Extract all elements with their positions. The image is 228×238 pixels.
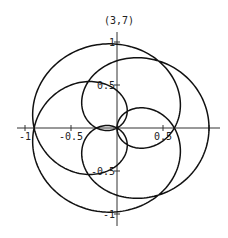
y-tick-label: 0.5	[97, 80, 115, 91]
chart-title: (3,7)	[104, 15, 134, 26]
y-tick-label: -0.5	[91, 166, 115, 177]
polar-rose-chart: (3,7) -1-0.50.510.5-0.5-1	[0, 0, 228, 238]
x-tick-label: -1	[19, 131, 31, 142]
y-tick-label: 1	[109, 37, 115, 48]
x-tick-label: -0.5	[59, 131, 83, 142]
y-tick-label: -1	[103, 209, 115, 220]
